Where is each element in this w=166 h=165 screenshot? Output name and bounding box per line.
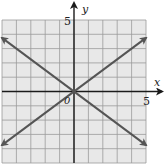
origin-label: 0 bbox=[64, 95, 71, 106]
x-axis-label: x bbox=[154, 76, 161, 89]
y-tick-label-5: 5 bbox=[64, 15, 71, 28]
x-tick-label-5: 5 bbox=[143, 95, 150, 108]
y-axis-label: y bbox=[81, 3, 89, 16]
coordinate-plane: y 5 x 5 0 bbox=[0, 0, 166, 165]
